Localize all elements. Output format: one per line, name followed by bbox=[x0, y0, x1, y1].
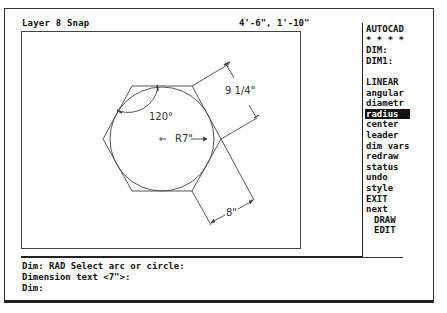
menu-item-dim[interactable]: DIM: bbox=[365, 45, 435, 56]
menu-item-undo[interactable]: undo bbox=[365, 172, 435, 183]
menu-stars[interactable]: * * * * bbox=[365, 35, 435, 46]
layer-snap-status: Layer 8 Snap bbox=[22, 18, 89, 28]
menu-gap bbox=[365, 66, 435, 77]
command-line-3[interactable]: Dim: bbox=[22, 283, 185, 294]
menu-item-status[interactable]: status bbox=[365, 162, 435, 173]
menu-item-dim1[interactable]: DIM1: bbox=[365, 56, 435, 67]
menu-item-angular[interactable]: angular bbox=[365, 88, 435, 99]
menu-item-leader[interactable]: leader bbox=[365, 130, 435, 141]
menu-item-diametr[interactable]: diametr bbox=[365, 98, 435, 109]
menu-item-dim-vars[interactable]: dim vars bbox=[365, 141, 435, 152]
screen-menu: AUTOCAD * * * * DIM: DIM1: LINEAR angula… bbox=[365, 24, 435, 236]
command-prompt-area[interactable]: Dim: RAD Select arc or circle: Dimension… bbox=[22, 261, 185, 294]
menu-item-exit[interactable]: EXIT bbox=[365, 194, 435, 205]
extension-line bbox=[192, 191, 211, 225]
menu-item-draw[interactable]: DRAW bbox=[365, 215, 435, 226]
menu-item-redraw[interactable]: redraw bbox=[365, 151, 435, 162]
menu-separator bbox=[362, 23, 363, 258]
menu-item-style[interactable]: style bbox=[365, 183, 435, 194]
menu-item-linear[interactable]: LINEAR bbox=[365, 77, 435, 88]
aligned-bottom-label: 8" bbox=[226, 207, 237, 218]
menu-item-next[interactable]: next bbox=[365, 204, 435, 215]
command-line-1: Dim: RAD Select arc or circle: bbox=[22, 261, 185, 272]
menu-item-radius[interactable]: radius bbox=[365, 109, 410, 120]
viewport-bottom-edge bbox=[21, 256, 362, 258]
menu-item-center[interactable]: center bbox=[365, 119, 435, 130]
menu-header-autocad[interactable]: AUTOCAD bbox=[365, 24, 435, 35]
coordinate-readout: 4'-6", 1'-10" bbox=[239, 18, 309, 28]
aligned-top-label: 9 1/4" bbox=[225, 85, 255, 96]
command-line-2: Dimension text <7">: bbox=[22, 272, 185, 283]
cad-drawing[interactable]: 120° R7" 9 1/4" 8" bbox=[22, 32, 302, 250]
extension-line bbox=[192, 64, 229, 86]
angle-label: 120° bbox=[149, 111, 173, 122]
menu-item-edit[interactable]: EDIT bbox=[365, 225, 435, 236]
radius-label: R7" bbox=[175, 133, 193, 144]
drawing-viewport[interactable]: 120° R7" 9 1/4" 8" bbox=[21, 31, 301, 249]
